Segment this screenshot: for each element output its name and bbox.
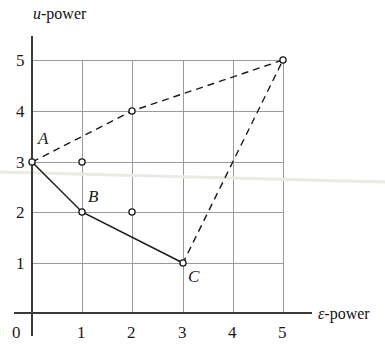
scan-artifact-line — [0, 172, 385, 182]
y-axis-title: u-power — [33, 6, 86, 22]
x-tick-label-0: 0 — [12, 324, 21, 341]
plot-figure: u-power ε-power 5 4 3 2 1 0 1 2 3 4 5 A … — [0, 0, 385, 352]
data-point-5-5 — [280, 57, 286, 63]
y-tick-label-2: 2 — [16, 204, 25, 221]
x-axis-title-suffix: -power — [324, 305, 369, 322]
y-tick-label-3: 3 — [16, 154, 25, 171]
plot-canvas — [0, 0, 385, 352]
data-point-2-4 — [129, 108, 135, 114]
y-axis-title-suffix: -power — [41, 5, 86, 22]
point-label-c: C — [188, 268, 199, 285]
x-axis-title: ε-power — [318, 306, 370, 322]
y-tick-label-4: 4 — [16, 103, 25, 120]
grid-lines — [32, 60, 283, 313]
y-tick-label-5: 5 — [16, 52, 25, 69]
data-point-c-3-1 — [180, 260, 186, 266]
x-tick-label-1: 1 — [77, 324, 86, 341]
x-tick-label-3: 3 — [178, 324, 187, 341]
point-label-a: A — [38, 130, 48, 147]
point-label-b: B — [88, 188, 98, 205]
data-point-a-0-3 — [29, 159, 35, 165]
y-axis-title-variable: u — [33, 5, 41, 22]
data-point-b-1-2 — [79, 209, 85, 215]
x-tick-label-4: 4 — [228, 324, 237, 341]
y-tick-label-1: 1 — [16, 255, 25, 272]
x-tick-label-5: 5 — [278, 324, 287, 341]
x-tick-label-2: 2 — [127, 324, 136, 341]
data-point-2-2 — [129, 209, 135, 215]
axis-lines — [14, 36, 312, 336]
data-point-1-3 — [79, 159, 85, 165]
